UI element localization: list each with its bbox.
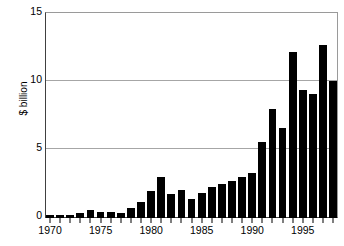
bar-slot bbox=[166, 12, 176, 218]
x-label-slot bbox=[106, 224, 116, 242]
x-tick-1985 bbox=[197, 218, 207, 223]
x-label-slot bbox=[227, 224, 237, 242]
x-label-slot bbox=[217, 224, 227, 242]
bar-slot bbox=[146, 12, 156, 218]
bar-slot bbox=[65, 12, 75, 218]
bar-slot bbox=[207, 12, 217, 218]
x-tick-1989 bbox=[237, 218, 247, 223]
x-tick-1973 bbox=[75, 218, 85, 223]
x-label-slot bbox=[156, 224, 166, 242]
x-label-slot bbox=[55, 224, 65, 242]
bar-slot bbox=[288, 12, 298, 218]
bar-1974 bbox=[87, 210, 95, 218]
x-label-slot bbox=[116, 224, 126, 242]
x-label-slot bbox=[176, 224, 186, 242]
x-label-slot bbox=[166, 224, 176, 242]
x-tick-1990 bbox=[247, 218, 257, 223]
bar-1993 bbox=[279, 128, 287, 218]
bar-slot bbox=[45, 12, 55, 218]
bar-chart: $ billion 051015 19701975198019851990199… bbox=[0, 0, 344, 246]
bar-1991 bbox=[258, 142, 266, 218]
bar-slot bbox=[298, 12, 308, 218]
x-tick-1976 bbox=[106, 218, 116, 223]
bar-1992 bbox=[269, 109, 277, 218]
x-tick-1972 bbox=[65, 218, 75, 223]
bar-1984 bbox=[188, 199, 196, 218]
x-label-slot bbox=[328, 224, 338, 242]
x-label-slot: 1985 bbox=[197, 224, 207, 242]
bar-slot bbox=[126, 12, 136, 218]
x-tick-1993 bbox=[278, 218, 288, 223]
x-tick-1998 bbox=[328, 218, 338, 223]
bar-slot bbox=[267, 12, 277, 218]
bar-slot bbox=[247, 12, 257, 218]
x-tick-1980 bbox=[146, 218, 156, 223]
x-label-slot bbox=[75, 224, 85, 242]
x-tick-1982 bbox=[166, 218, 176, 223]
bar-slot bbox=[227, 12, 237, 218]
bar-slot bbox=[278, 12, 288, 218]
x-tick-1997 bbox=[318, 218, 328, 223]
bar-1994 bbox=[289, 52, 297, 218]
bar-slot bbox=[257, 12, 267, 218]
bar-slot bbox=[328, 12, 338, 218]
x-tick-1992 bbox=[267, 218, 277, 223]
bar-1998 bbox=[329, 81, 337, 218]
x-label-slot: 1990 bbox=[247, 224, 257, 242]
y-tick-label-10: 10 bbox=[20, 74, 42, 84]
bar-1996 bbox=[309, 94, 317, 218]
x-tick-1977 bbox=[116, 218, 126, 223]
x-label-slot: 1995 bbox=[298, 224, 308, 242]
x-label-slot bbox=[318, 224, 328, 242]
bar-slot bbox=[187, 12, 197, 218]
x-label-slot: 1975 bbox=[96, 224, 106, 242]
bar-slot bbox=[176, 12, 186, 218]
bar-slot bbox=[318, 12, 328, 218]
x-label-slot bbox=[267, 224, 277, 242]
x-tick-1996 bbox=[308, 218, 318, 223]
bar-1985 bbox=[198, 193, 206, 218]
bar-slot bbox=[75, 12, 85, 218]
bar-1986 bbox=[208, 187, 216, 218]
bar-1988 bbox=[228, 181, 236, 218]
x-label-slot bbox=[257, 224, 267, 242]
x-tick-1988 bbox=[227, 218, 237, 223]
bar-slot bbox=[96, 12, 106, 218]
bar-1987 bbox=[218, 184, 226, 218]
x-label-slot bbox=[126, 224, 136, 242]
bar-slot bbox=[308, 12, 318, 218]
bar-1979 bbox=[137, 202, 145, 218]
x-tick-1981 bbox=[156, 218, 166, 223]
bar-slot bbox=[237, 12, 247, 218]
x-tick-1987 bbox=[217, 218, 227, 223]
x-axis-ticks bbox=[45, 218, 338, 223]
bar-slot bbox=[116, 12, 126, 218]
bar-slot bbox=[156, 12, 166, 218]
x-tick-1979 bbox=[136, 218, 146, 223]
x-tick-1974 bbox=[85, 218, 95, 223]
bar-1981 bbox=[157, 177, 165, 218]
x-tick-1975 bbox=[96, 218, 106, 223]
bar-1983 bbox=[178, 190, 186, 218]
bar-slot bbox=[85, 12, 95, 218]
x-label-slot: 1980 bbox=[146, 224, 156, 242]
bar-1990 bbox=[248, 173, 256, 218]
bar-1982 bbox=[167, 194, 175, 218]
x-tick-1983 bbox=[176, 218, 186, 223]
bars-container bbox=[45, 12, 338, 218]
x-tick-1995 bbox=[298, 218, 308, 223]
x-label-slot bbox=[65, 224, 75, 242]
x-tick-1986 bbox=[207, 218, 217, 223]
x-tick-1970 bbox=[45, 218, 55, 223]
bar-1995 bbox=[299, 90, 307, 218]
x-label-slot bbox=[308, 224, 318, 242]
x-tick-1978 bbox=[126, 218, 136, 223]
bar-slot bbox=[197, 12, 207, 218]
x-label-slot bbox=[207, 224, 217, 242]
bar-slot bbox=[55, 12, 65, 218]
y-tick-label-0: 0 bbox=[20, 210, 42, 220]
x-tick-1971 bbox=[55, 218, 65, 223]
x-axis-tick-labels: 197019751980198519901995 bbox=[45, 224, 338, 242]
bar-1980 bbox=[147, 191, 155, 218]
x-label-slot bbox=[278, 224, 288, 242]
